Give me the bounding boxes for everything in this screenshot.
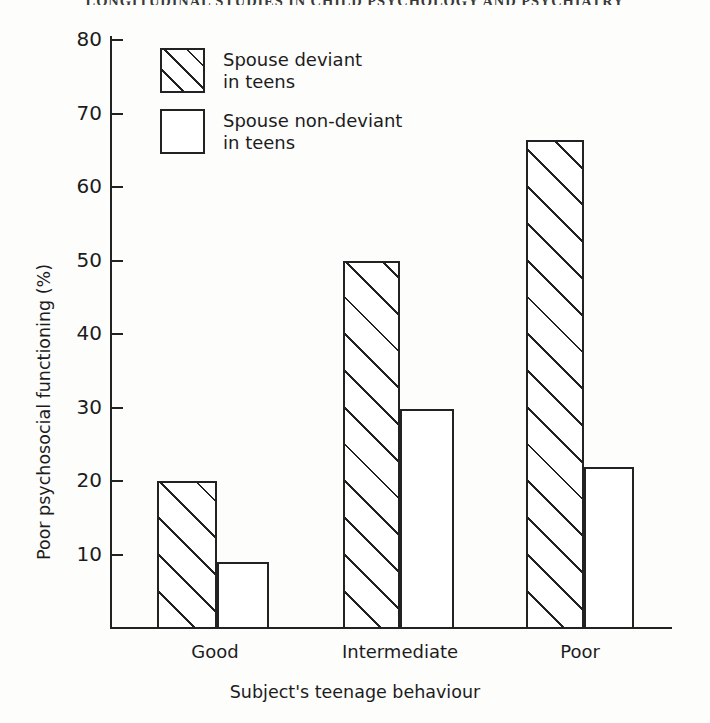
y-tick-label-20: 20	[56, 470, 102, 490]
x-category-label-poor: Poor	[520, 641, 640, 662]
legend-label-line2: in teens	[223, 71, 362, 93]
y-tick-label-30: 30	[56, 397, 102, 417]
y-tick-80	[112, 39, 123, 41]
legend-label-line1: Spouse deviant	[223, 49, 362, 71]
bar-poor-spouse-deviant	[526, 140, 584, 629]
y-axis-title: Poor psychosocial functioning (%)	[34, 264, 54, 560]
y-tick-10	[112, 554, 123, 556]
legend-swatch-open-icon	[160, 109, 205, 154]
y-tick-60	[112, 186, 123, 188]
y-tick-label-40: 40	[56, 323, 102, 343]
y-tick-label-80: 80	[56, 29, 102, 49]
y-tick-label-70: 70	[56, 103, 102, 123]
y-tick-label-10: 10	[56, 544, 102, 564]
legend-swatch-hatched-icon	[160, 48, 205, 93]
y-tick-label-50: 50	[56, 250, 102, 270]
bar-poor-spouse-non-deviant	[584, 467, 634, 629]
bar-intermediate-spouse-deviant	[343, 261, 400, 629]
y-tick-40	[112, 333, 123, 335]
chart-legend: Spouse deviant in teens Spouse non-devia…	[160, 48, 402, 170]
y-tick-20	[112, 480, 123, 482]
bar-intermediate-spouse-non-deviant	[400, 409, 454, 629]
x-category-label-intermediate: Intermediate	[330, 641, 470, 662]
bar-good-spouse-deviant	[157, 481, 217, 629]
bar-good-spouse-non-deviant	[217, 562, 269, 629]
legend-label-line1: Spouse non-deviant	[223, 110, 402, 132]
legend-item-spouse-non-deviant: Spouse non-deviant in teens	[160, 109, 402, 154]
y-tick-label-60: 60	[56, 176, 102, 196]
legend-label-line2: in teens	[223, 132, 402, 154]
x-category-label-good: Good	[150, 641, 280, 662]
y-tick-50	[112, 260, 123, 262]
legend-label-spouse-non-deviant: Spouse non-deviant in teens	[223, 109, 402, 154]
legend-item-spouse-deviant: Spouse deviant in teens	[160, 48, 402, 93]
x-axis-title: Subject's teenage behaviour	[0, 682, 710, 702]
y-tick-70	[112, 113, 123, 115]
legend-label-spouse-deviant: Spouse deviant in teens	[223, 48, 362, 93]
bar-chart-figure: 80 70 60 50 40 30 20 10 Poor psychosocia…	[0, 0, 710, 723]
y-tick-30	[112, 407, 123, 409]
